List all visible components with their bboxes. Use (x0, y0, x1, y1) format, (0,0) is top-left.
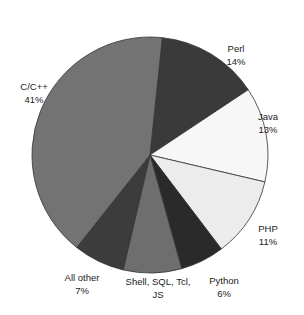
slice-label: C/C++41% (20, 81, 48, 105)
slice-label: PHP11% (258, 223, 278, 247)
slice-label: Shell, SQL, Tcl,JS (126, 276, 191, 300)
slice-label: All other7% (65, 272, 100, 296)
pie-chart: Perl14%Java13%PHP11%Python6%Shell, SQL, … (0, 0, 304, 315)
slice-label: Python6% (209, 275, 239, 299)
slice-label: Perl14% (226, 43, 246, 67)
